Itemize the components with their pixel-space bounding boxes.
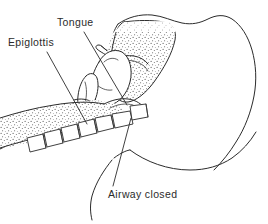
label-tongue: Tongue: [57, 16, 94, 28]
airway-diagram-figure: Tongue Epiglottis Airway closed: [0, 0, 268, 224]
label-airway-closed: Airway closed: [108, 188, 177, 200]
label-epiglottis: Epiglottis: [8, 36, 54, 48]
diagram-canvas: Tongue Epiglottis Airway closed: [0, 0, 268, 224]
